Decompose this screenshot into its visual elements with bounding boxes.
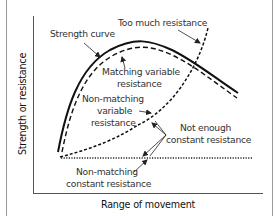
label-matching-2: resistance — [117, 78, 162, 89]
x-axis-label: Range of movement — [101, 199, 196, 210]
not-enough-arrow-down — [143, 135, 166, 156]
label-matching-1: Matching variable — [102, 66, 181, 77]
strength-curve-arrow — [84, 43, 100, 57]
label-strength-curve: Strength curve — [50, 28, 116, 39]
label-nonmatch-var-1: Non-matching — [82, 93, 144, 104]
not-enough-arrow-up — [152, 123, 166, 135]
non-matching-variable-arrow — [139, 111, 151, 113]
label-nonmatch-const-1: Non-matching — [76, 166, 138, 177]
strength-resistance-diagram: Strength curve Too much resistance Match… — [0, 0, 276, 216]
label-too-much-resistance: Too much resistance — [117, 17, 208, 28]
label-nonmatch-var-2: variable — [97, 105, 133, 116]
not-enough-bracket — [150, 121, 166, 156]
label-nonmatch-const-2: constant resistance — [66, 178, 152, 189]
too-much-arrow — [178, 30, 200, 43]
label-not-enough-2: constant resistance — [166, 134, 252, 145]
y-axis-label: Strength or resistance — [17, 53, 28, 156]
label-nonmatch-var-3: resistance — [91, 117, 136, 128]
non-matching-variable-line — [60, 125, 138, 157]
label-not-enough-1: Not enough — [180, 122, 232, 133]
